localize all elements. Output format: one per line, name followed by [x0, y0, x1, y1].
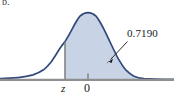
zero-tick-label: 0: [84, 82, 90, 94]
panel-letter: b.: [2, 0, 10, 7]
area-value-label: 0.7190: [127, 28, 158, 39]
z-tick-label: z: [61, 83, 65, 94]
normal-curve-figure: b. 0.7190 z 0: [0, 0, 174, 99]
shaded-area-region: [65, 13, 174, 80]
